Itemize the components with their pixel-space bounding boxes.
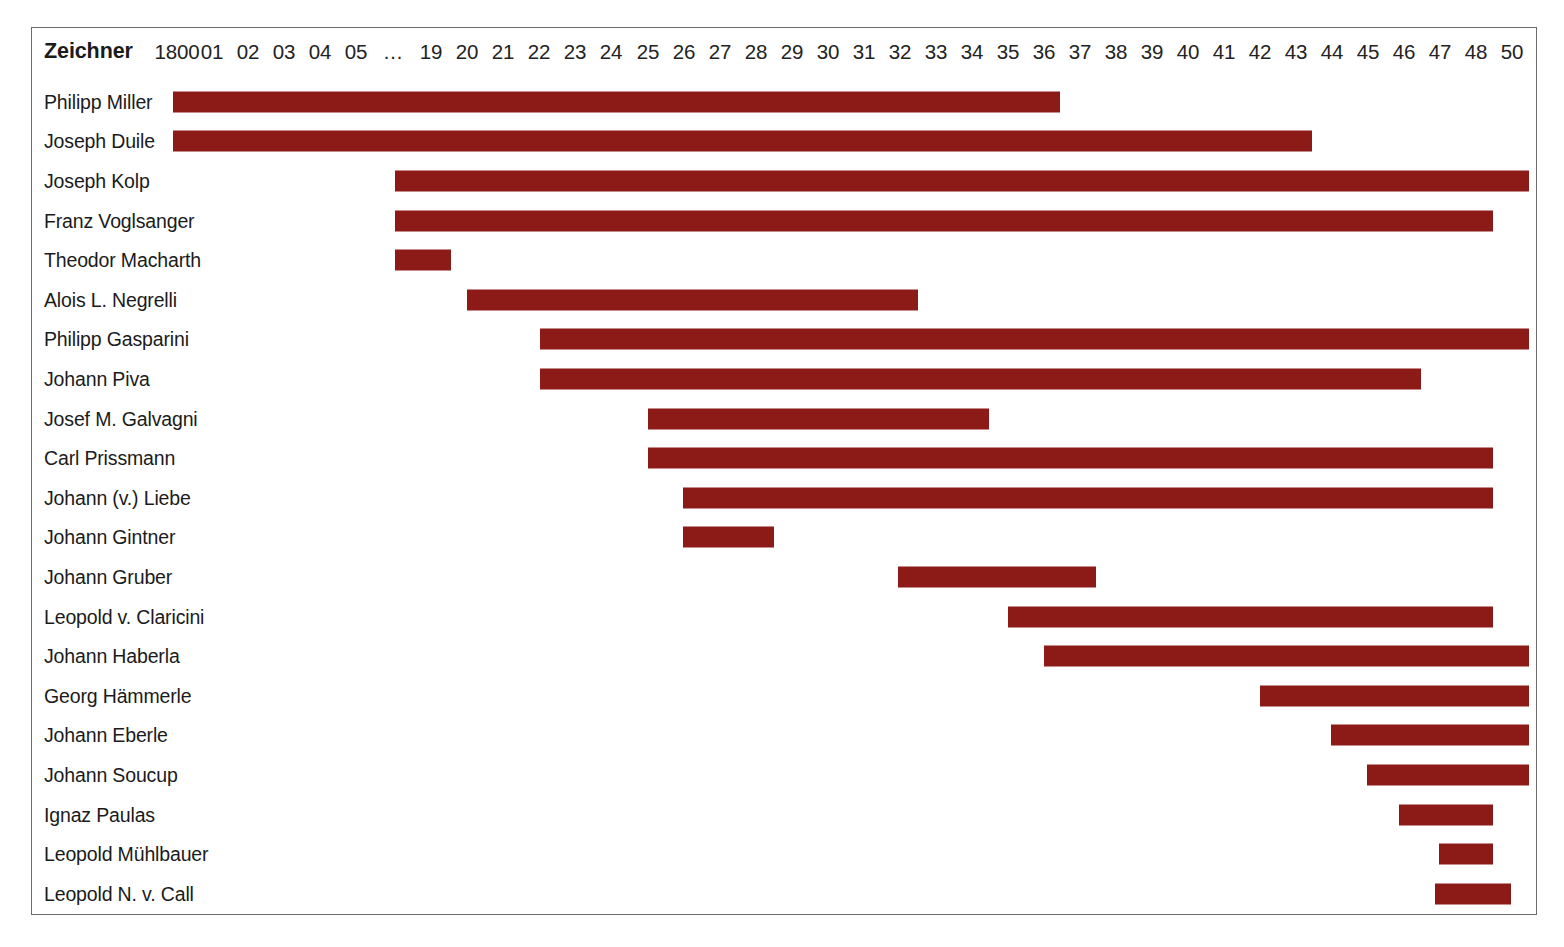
year-tick-50: 50 [1501, 40, 1523, 64]
row-label-ignaz-paulas: Ignaz Paulas [44, 803, 155, 826]
gantt-bar [898, 566, 1096, 587]
row-label-johann-piva: Johann Piva [44, 367, 150, 390]
row-label-johann-haberla: Johann Haberla [44, 645, 180, 668]
year-tick-39: 39 [1141, 40, 1163, 64]
year-tick-37: 37 [1069, 40, 1091, 64]
row-label-georg-h-mmerle: Georg Hämmerle [44, 684, 191, 707]
year-tick-34: 34 [961, 40, 983, 64]
year-tick-02: 02 [237, 40, 259, 64]
row-label-theodor-macharth: Theodor Macharth [44, 249, 201, 272]
year-tick-01: 01 [201, 40, 223, 64]
gantt-row: Alois L. Negrelli [32, 280, 1536, 320]
gantt-row: Johann (v.) Liebe [32, 478, 1536, 518]
row-label-franz-voglsanger: Franz Voglsanger [44, 209, 194, 232]
year-tick-40: 40 [1177, 40, 1199, 64]
gantt-bar [540, 329, 1529, 350]
row-label-carl-prissmann: Carl Prissmann [44, 447, 175, 470]
row-label-joseph-duile: Joseph Duile [44, 130, 155, 153]
year-tick-21: 21 [492, 40, 514, 64]
gantt-bar [1331, 725, 1529, 746]
year-tick-20: 20 [456, 40, 478, 64]
row-label-leopold-n-v-call: Leopold N. v. Call [44, 882, 194, 905]
gantt-bar [1367, 764, 1529, 785]
gantt-bar [683, 487, 1493, 508]
chart-header-row: Zeichner 18000102030405…1920212223242526… [32, 28, 1536, 76]
year-tick-19: 19 [420, 40, 442, 64]
gantt-bar [395, 250, 451, 271]
row-label-johann-soucup: Johann Soucup [44, 763, 178, 786]
gantt-row: Franz Voglsanger [32, 201, 1536, 241]
gantt-row: Johann Piva [32, 359, 1536, 399]
chart-frame: Zeichner 18000102030405…1920212223242526… [31, 27, 1537, 915]
year-tick-05: 05 [345, 40, 367, 64]
year-tick-35: 35 [997, 40, 1019, 64]
gantt-bar [1439, 844, 1493, 865]
year-tick-47: 47 [1429, 40, 1451, 64]
gantt-row: Carl Prissmann [32, 438, 1536, 478]
gantt-row: Johann Gintner [32, 518, 1536, 558]
year-tick-30: 30 [817, 40, 839, 64]
gantt-row: Philipp Gasparini [32, 320, 1536, 360]
gantt-row: Johann Gruber [32, 557, 1536, 597]
year-tick-46: 46 [1393, 40, 1415, 64]
year-tick-23: 23 [564, 40, 586, 64]
gantt-row: Josef M. Galvagni [32, 399, 1536, 439]
row-label-philipp-miller: Philipp Miller [44, 90, 152, 113]
row-label-johann-eberle: Johann Eberle [44, 724, 168, 747]
gantt-row: Leopold Mühlbauer [32, 834, 1536, 874]
gantt-bar [173, 131, 1312, 152]
gantt-bar [1008, 606, 1493, 627]
gantt-bar [173, 91, 1060, 112]
year-tick-48: 48 [1465, 40, 1487, 64]
row-label-alois-l-negrelli: Alois L. Negrelli [44, 288, 177, 311]
year-tick-33: 33 [925, 40, 947, 64]
gantt-bar [683, 527, 774, 548]
gantt-row: Joseph Kolp [32, 161, 1536, 201]
year-tick-25: 25 [637, 40, 659, 64]
gantt-bar [1435, 883, 1511, 904]
gantt-bar [648, 408, 989, 429]
gantt-row: Joseph Duile [32, 122, 1536, 162]
year-tick-ellipsis: … [383, 40, 403, 64]
year-tick-41: 41 [1213, 40, 1235, 64]
year-tick-29: 29 [781, 40, 803, 64]
row-label-joseph-kolp: Joseph Kolp [44, 169, 150, 192]
gantt-row: Johann Haberla [32, 636, 1536, 676]
gantt-row: Johann Soucup [32, 755, 1536, 795]
gantt-bar [1260, 685, 1529, 706]
row-label-leopold-m-hlbauer: Leopold Mühlbauer [44, 843, 208, 866]
gantt-bar [395, 170, 1529, 191]
row-label-johann-gintner: Johann Gintner [44, 526, 175, 549]
gantt-bar [467, 289, 918, 310]
year-tick-28: 28 [745, 40, 767, 64]
gantt-bar [395, 210, 1493, 231]
row-label-johann-v-liebe: Johann (v.) Liebe [44, 486, 191, 509]
year-tick-44: 44 [1321, 40, 1343, 64]
year-tick-1800: 1800 [155, 40, 200, 64]
gantt-row: Leopold v. Claricini [32, 597, 1536, 637]
year-tick-36: 36 [1033, 40, 1055, 64]
gantt-row: Leopold N. v. Call [32, 874, 1536, 914]
gantt-row: Georg Hämmerle [32, 676, 1536, 716]
year-tick-03: 03 [273, 40, 295, 64]
row-label-johann-gruber: Johann Gruber [44, 565, 172, 588]
gantt-bar [1044, 646, 1529, 667]
year-tick-24: 24 [600, 40, 622, 64]
column-header-zeichner: Zeichner [44, 39, 133, 64]
year-tick-32: 32 [889, 40, 911, 64]
gantt-bar [648, 448, 1493, 469]
gantt-row: Philipp Miller [32, 82, 1536, 122]
year-tick-42: 42 [1249, 40, 1271, 64]
year-tick-22: 22 [528, 40, 550, 64]
year-tick-27: 27 [709, 40, 731, 64]
gantt-row: Theodor Macharth [32, 240, 1536, 280]
gantt-row: Ignaz Paulas [32, 795, 1536, 835]
year-tick-38: 38 [1105, 40, 1127, 64]
year-tick-45: 45 [1357, 40, 1379, 64]
gantt-bar [540, 368, 1421, 389]
gantt-bar [1399, 804, 1493, 825]
year-tick-43: 43 [1285, 40, 1307, 64]
year-tick-31: 31 [853, 40, 875, 64]
row-label-leopold-v-claricini: Leopold v. Claricini [44, 605, 204, 628]
row-label-josef-m-galvagni: Josef M. Galvagni [44, 407, 198, 430]
